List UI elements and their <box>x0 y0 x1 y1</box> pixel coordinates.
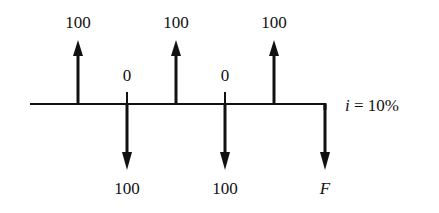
interest-rate-label: i = 10% <box>345 96 399 116</box>
down-arrow-2 <box>122 104 132 170</box>
down-arrow-4 <box>220 104 230 170</box>
label-up-3: 100 <box>163 14 189 31</box>
up-arrow-1 <box>73 40 83 104</box>
label-zero-4: 0 <box>221 67 230 84</box>
label-zero-2: 0 <box>123 67 132 84</box>
label-down-4: 100 <box>212 180 238 197</box>
up-arrow-5 <box>269 40 279 104</box>
up-arrow-3 <box>171 40 181 104</box>
label-future-value: F <box>320 180 330 197</box>
label-down-2: 100 <box>114 180 140 197</box>
interest-symbol: i <box>345 96 350 115</box>
down-arrow-6 <box>320 104 330 170</box>
label-up-5: 100 <box>261 14 287 31</box>
interest-value: = 10% <box>354 96 399 115</box>
label-up-1: 100 <box>65 14 91 31</box>
